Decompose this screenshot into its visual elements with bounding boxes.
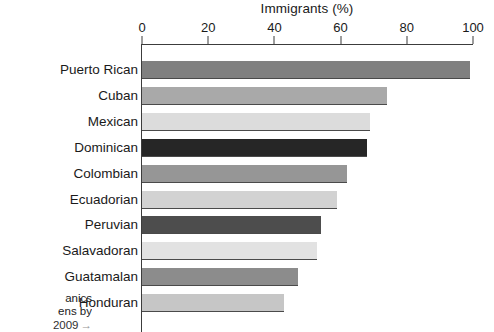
bar-peruvian [142, 216, 321, 234]
caption-line-3: 2009→ [0, 319, 92, 332]
bar-row: Puerto Rican [0, 61, 494, 79]
bar-puerto-rican [142, 61, 470, 79]
category-label-mexican: Mexican [88, 114, 138, 129]
bar-row: Cuban [0, 87, 494, 105]
bar-row: Peruvian [0, 216, 494, 234]
bar-honduran [142, 294, 284, 312]
category-label-guatamalan: Guatamalan [64, 269, 138, 284]
caption-arrow-icon: → [81, 319, 93, 332]
bar-colombian [142, 165, 347, 183]
bar-row: Salavadoran [0, 242, 494, 260]
bar-row: Dominican [0, 139, 494, 157]
bar-row: Mexican [0, 113, 494, 131]
caption-line-1: anics [0, 292, 92, 306]
category-label-peruvian: Peruvian [85, 218, 138, 233]
bar-row: Guatamalan [0, 268, 494, 286]
category-label-salavadoran: Salavadoran [62, 243, 138, 258]
bar-row: Ecuadorian [0, 191, 494, 209]
category-label-colombian: Colombian [73, 166, 138, 181]
bar-guatamalan [142, 268, 298, 286]
bar-dominican [142, 139, 367, 157]
bar-chart: Immigrants (%) 020406080100 Puerto Rican… [0, 0, 494, 332]
caption-line-2: ens by [0, 305, 92, 319]
category-label-puerto-rican: Puerto Rican [60, 62, 138, 77]
category-label-cuban: Cuban [98, 88, 138, 103]
bar-row: Colombian [0, 165, 494, 183]
caption-line-3-text: 2009 [53, 319, 79, 331]
plot-area: Puerto RicanCubanMexicanDominicanColombi… [0, 0, 494, 332]
category-label-ecuadorian: Ecuadorian [70, 192, 138, 207]
bar-mexican [142, 113, 370, 131]
caption-fragment: anics ens by 2009→ [0, 292, 92, 332]
bar-cuban [142, 87, 387, 105]
category-label-dominican: Dominican [74, 140, 138, 155]
bar-salavadoran [142, 242, 317, 260]
bar-ecuadorian [142, 191, 337, 209]
